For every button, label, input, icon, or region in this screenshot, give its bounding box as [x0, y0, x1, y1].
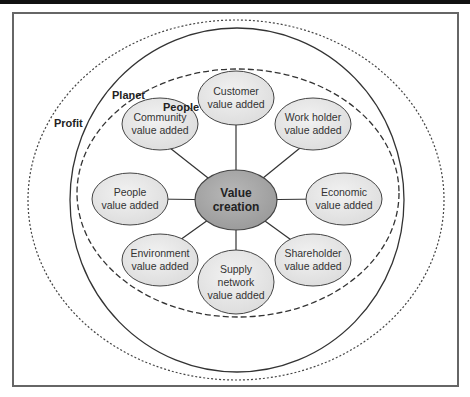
community-label: Community value added	[122, 98, 198, 150]
supply-network-label: Supply network value added	[198, 250, 274, 314]
profit-label: Profit	[54, 117, 83, 129]
work-holder-label: Work holder value added	[275, 98, 351, 150]
economic-label: Economic value added	[306, 173, 382, 225]
environment-label: Environment value added	[122, 234, 198, 286]
shareholder-label: Shareholder value added	[275, 234, 351, 286]
people-node-label: People value added	[92, 173, 168, 225]
value-creation-label: Value creation	[195, 170, 277, 230]
customer-label: Customer value added	[198, 71, 274, 125]
